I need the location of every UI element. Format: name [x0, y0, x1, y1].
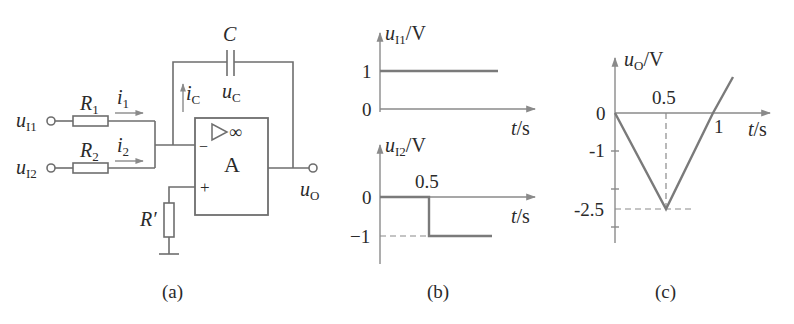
y-tick-1: 1 [362, 61, 372, 82]
terminal-circle-icon [47, 117, 55, 125]
resistor-r2 [73, 163, 108, 173]
infinity-icon: ∞ [229, 122, 242, 142]
uI2-trace [380, 197, 492, 236]
y-tick-minus1: −1 [350, 226, 370, 247]
figure: uI1 R1 i1 uI2 R2 i2 C uC iC ∞ [0, 0, 794, 324]
caption-a: (a) [162, 281, 183, 303]
circuit-panel: uI1 R1 i1 uI2 R2 i2 C uC iC ∞ [16, 23, 319, 303]
x-axis-label: t/s [748, 118, 767, 140]
y-axis-label: uO/V [624, 48, 664, 73]
input-terminal-2: uI2 [16, 156, 55, 181]
resistor-rprime-label: R′ [139, 208, 157, 230]
y-tick-0: 0 [362, 99, 372, 120]
y-tick-0: 0 [362, 187, 372, 208]
resistor-r1-label: R1 [79, 92, 99, 117]
resistor-r2-label: R2 [79, 139, 99, 164]
noninverting-input-sign: + [200, 178, 210, 197]
x-axis-label: t/s [511, 205, 530, 227]
current-i2-label: i2 [117, 134, 129, 159]
resistor-rprime [164, 203, 174, 237]
y-tick-minus1: -1 [589, 140, 605, 161]
y-tick-minus2-5: -2.5 [574, 199, 604, 220]
output-waveform-panel: uO/V 0.5 1 0 -1 -2.5 t/s (c) [574, 48, 770, 303]
x-tick-05: 0.5 [652, 87, 676, 108]
input-label-2: uI2 [16, 156, 37, 181]
chart-uI2: uI2/V 0.5 0 −1 t/s [350, 134, 535, 264]
y-tick-0: 0 [596, 103, 606, 124]
output-terminal-icon [309, 164, 317, 172]
input-label-1: uI1 [16, 109, 37, 134]
current-i1-label: i1 [117, 86, 129, 111]
output-label: uO [300, 178, 319, 203]
caption-c: (c) [655, 281, 676, 303]
x-tick-1: 1 [714, 116, 724, 137]
x-axis-label: t/s [511, 117, 530, 139]
caption-b: (b) [427, 281, 449, 303]
terminal-circle-icon [47, 164, 55, 172]
capacitor-voltage-label: uC [222, 80, 241, 105]
capacitor-label: C [223, 23, 237, 45]
input-waveforms-panel: uI1/V 1 0 t/s uI2/V 0.5 0 −1 t/s (b) [350, 22, 535, 303]
figure-svg: uI1 R1 i1 uI2 R2 i2 C uC iC ∞ [0, 0, 794, 324]
resistor-r1 [73, 116, 108, 126]
inverting-input-sign: − [199, 138, 208, 155]
y-axis-label: uI1/V [385, 22, 426, 47]
capacitor-current-label: iC [186, 82, 200, 107]
x-tick-05: 0.5 [415, 171, 439, 192]
opamp-label: A [224, 152, 240, 177]
chart-uI1: uI1/V 1 0 t/s [362, 22, 535, 139]
y-axis-label: uI2/V [385, 134, 426, 159]
input-terminal-1: uI1 [16, 109, 55, 134]
